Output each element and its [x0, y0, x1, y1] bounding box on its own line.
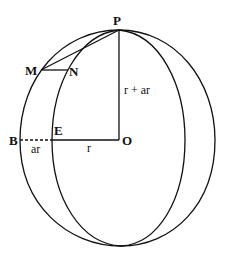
mp-chord-line	[41, 30, 119, 70]
spheroid-diagram: P M N E B O r + ar ar r	[0, 0, 226, 258]
label-equatorial-extra: ar	[31, 142, 40, 156]
label-o: O	[122, 133, 132, 148]
label-b: B	[9, 133, 18, 148]
label-p: P	[113, 13, 121, 28]
label-polar-radius: r + ar	[124, 83, 150, 97]
outer-spheroid-outline	[20, 30, 215, 246]
label-m: M	[25, 63, 37, 78]
label-equatorial-radius: r	[87, 141, 91, 155]
label-n: N	[69, 64, 79, 79]
label-e: E	[54, 123, 63, 138]
